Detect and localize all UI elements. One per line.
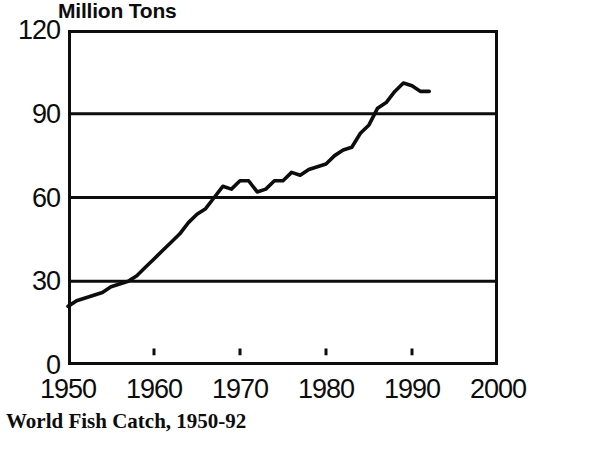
- x-tick-label-1990: 1990: [384, 374, 440, 405]
- x-tick-label-2000: 2000: [470, 374, 526, 405]
- y-tick-label-90: 90: [0, 98, 60, 129]
- x-tick-label-1950: 1950: [40, 374, 96, 405]
- y-tick-label-60: 60: [0, 182, 60, 213]
- data-line-0: [68, 83, 429, 306]
- y-axis-title: Million Tons: [58, 0, 177, 23]
- x-tick-label-1980: 1980: [298, 374, 354, 405]
- y-tick-label-120: 120: [0, 15, 60, 46]
- figure-caption: World Fish Catch, 1950-92: [6, 409, 246, 434]
- fish-catch-chart-figure: Million Tons 0306090120 1950196019701980…: [0, 0, 606, 454]
- x-tick-label-1960: 1960: [126, 374, 182, 405]
- x-tick-label-1970: 1970: [212, 374, 268, 405]
- data-series-layer: [68, 30, 498, 365]
- y-tick-label-30: 30: [0, 266, 60, 297]
- plot-area: [68, 30, 498, 365]
